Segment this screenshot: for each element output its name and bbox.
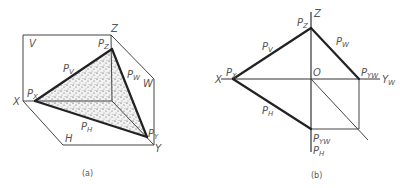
label-axis-x: X bbox=[12, 96, 21, 107]
label-axis-z: Z bbox=[110, 23, 119, 34]
label-axis-x: X bbox=[214, 74, 223, 85]
caption-a: (a) bbox=[82, 169, 93, 178]
label-trace-ph: PH bbox=[262, 105, 274, 118]
figure-a: V W H X Y Z PV PW PH PX PZ PY (a) bbox=[12, 23, 162, 178]
label-point-px: PX bbox=[27, 88, 38, 101]
label-trace-pw: PW bbox=[127, 69, 141, 82]
label-axis-z: Z bbox=[313, 8, 322, 19]
label-plane-v: V bbox=[29, 38, 37, 49]
label-axis-yw: YW bbox=[382, 74, 396, 87]
label-origin: O bbox=[313, 67, 321, 78]
label-plane-h: H bbox=[65, 133, 73, 144]
label-point-ph-bottom: PH bbox=[313, 145, 325, 158]
label-point-py: PY bbox=[148, 128, 159, 141]
label-trace-ph: PH bbox=[81, 121, 93, 134]
figure-b: X Z O YW PV PW PH PX PZ PYW PYW PH (b) bbox=[214, 8, 396, 180]
label-trace-pv: PV bbox=[262, 41, 274, 54]
label-point-pyw-right: PYW bbox=[361, 67, 379, 80]
label-plane-w: W bbox=[143, 78, 154, 89]
label-point-pz: PZ bbox=[297, 17, 308, 30]
label-trace-pw: PW bbox=[336, 36, 350, 49]
trace-ph bbox=[233, 79, 311, 129]
label-trace-pv: PV bbox=[63, 63, 75, 76]
label-axis-y: Y bbox=[155, 143, 162, 154]
diagram-canvas: V W H X Y Z PV PW PH PX PZ PY (a) X Z O … bbox=[0, 0, 400, 188]
label-point-pz: PZ bbox=[98, 38, 109, 51]
caption-b: (b) bbox=[311, 171, 322, 180]
label-point-px: PX bbox=[226, 67, 237, 80]
